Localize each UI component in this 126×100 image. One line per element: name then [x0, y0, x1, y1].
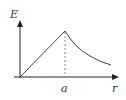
marker-label: a [61, 82, 68, 95]
y-axis-label: E [9, 8, 18, 21]
x-axis-arrow-icon [112, 74, 119, 80]
linear-segment [20, 31, 65, 77]
x-axis-label: r [112, 82, 118, 95]
y-axis-arrow-icon [17, 20, 23, 27]
decay-curve [65, 31, 111, 65]
field-diagram: E a r [0, 0, 126, 100]
